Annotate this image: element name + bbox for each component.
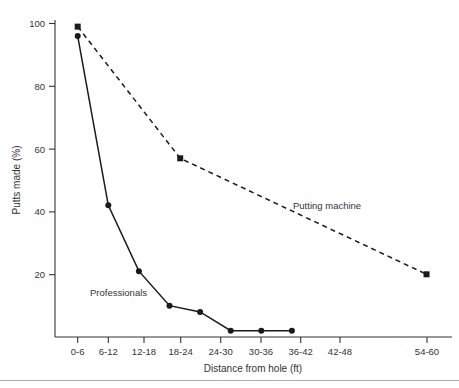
x-tick-label-18-24: 18-24 xyxy=(169,346,193,357)
y-tick-label-60: 60 xyxy=(34,144,45,155)
data-point-professionals-0-6 xyxy=(75,33,81,39)
y-tick-label-100: 100 xyxy=(29,18,45,29)
x-axis-ticks xyxy=(78,337,427,343)
data-point-professionals-6-12 xyxy=(105,202,111,208)
x-tick-label-30-36: 30-36 xyxy=(249,346,273,357)
y-axis-ticks xyxy=(49,24,55,275)
y-tick-label-20: 20 xyxy=(34,269,45,280)
data-point-professionals-42-48 xyxy=(289,328,295,334)
x-tick-label-24-30: 24-30 xyxy=(209,346,233,357)
x-tick-label-36-42: 36-42 xyxy=(289,346,313,357)
professionals-label: Professionals xyxy=(90,287,147,298)
putting-accuracy-chart: 100 80 60 40 20 Putts made (%) 0-6 6-12 … xyxy=(0,0,459,388)
data-point-professionals-12-18 xyxy=(136,268,142,274)
y-tick-label-80: 80 xyxy=(34,81,45,92)
data-point-putting-machine-18-24 xyxy=(177,155,183,161)
x-tick-label-6-12: 6-12 xyxy=(99,346,118,357)
y-axis-title: Putts made (%) xyxy=(11,146,22,215)
x-tick-label-0-6: 0-6 xyxy=(71,346,85,357)
series-line-putting-machine xyxy=(78,27,427,275)
footer-divider xyxy=(0,380,459,381)
data-point-professionals-30-36 xyxy=(228,328,234,334)
data-point-professionals-18-24 xyxy=(167,303,173,309)
data-point-putting-machine-54-60 xyxy=(424,271,430,277)
x-tick-label-54-60: 54-60 xyxy=(415,346,439,357)
x-tick-label-42-48: 42-48 xyxy=(328,346,352,357)
data-point-professionals-36-42 xyxy=(258,328,264,334)
x-tick-label-12-18: 12-18 xyxy=(132,346,156,357)
chart-plot-area: 100 80 60 40 20 Putts made (%) 0-6 6-12 … xyxy=(0,0,459,388)
x-axis-title: Distance from hole (ft) xyxy=(204,363,302,374)
putting-machine-label: Putting machine xyxy=(293,200,361,211)
y-tick-label-40: 40 xyxy=(34,206,45,217)
data-point-professionals-24-30 xyxy=(197,309,203,315)
data-point-putting-machine-0-6 xyxy=(75,24,81,30)
